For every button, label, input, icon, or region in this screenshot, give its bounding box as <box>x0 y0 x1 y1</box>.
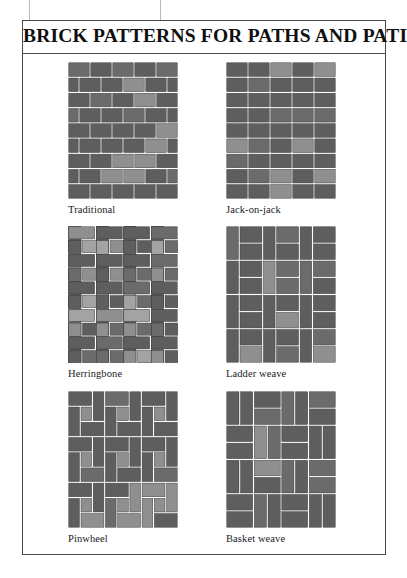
figure-title: BRICK PATTERNS FOR PATHS AND PATIOS <box>23 25 385 47</box>
pattern-label-ladder-weave: Ladder weave <box>226 369 385 380</box>
basket-weave-pattern-canvas <box>226 391 336 528</box>
pattern-swatch-basket-weave: Basket weave <box>204 391 385 555</box>
pattern-swatch-herringbone: Herringbone <box>23 226 204 390</box>
pattern-label-jack-on-jack: Jack-on-jack <box>226 205 385 216</box>
pattern-label-pinwheel: Pinwheel <box>68 534 204 545</box>
pattern-label-basket-weave: Basket weave <box>226 534 385 545</box>
pattern-swatch-ladder-weave: Ladder weave <box>204 226 385 390</box>
jack-on-jack-pattern-canvas <box>226 62 336 199</box>
pattern-swatch-traditional: Traditional <box>23 62 204 226</box>
pattern-swatch-jack-on-jack: Jack-on-jack <box>204 62 385 226</box>
traditional-pattern-canvas <box>68 62 178 199</box>
pattern-grid: Traditional Jack-on-jack Herringbone Lad… <box>23 54 385 555</box>
figure-box: BRICK PATTERNS FOR PATHS AND PATIOS Trad… <box>22 20 386 555</box>
herringbone-pattern-canvas <box>68 226 178 363</box>
pattern-label-traditional: Traditional <box>68 205 204 216</box>
pattern-label-herringbone: Herringbone <box>68 369 204 380</box>
page-column-rule <box>160 0 161 20</box>
ladder-weave-pattern-canvas <box>226 226 336 363</box>
pinwheel-pattern-canvas <box>68 391 178 528</box>
pattern-swatch-pinwheel: Pinwheel <box>23 391 204 555</box>
